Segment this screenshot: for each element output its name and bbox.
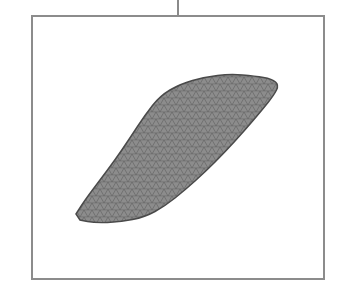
mesh-surface [0, 0, 345, 299]
mesh-body [76, 75, 278, 223]
